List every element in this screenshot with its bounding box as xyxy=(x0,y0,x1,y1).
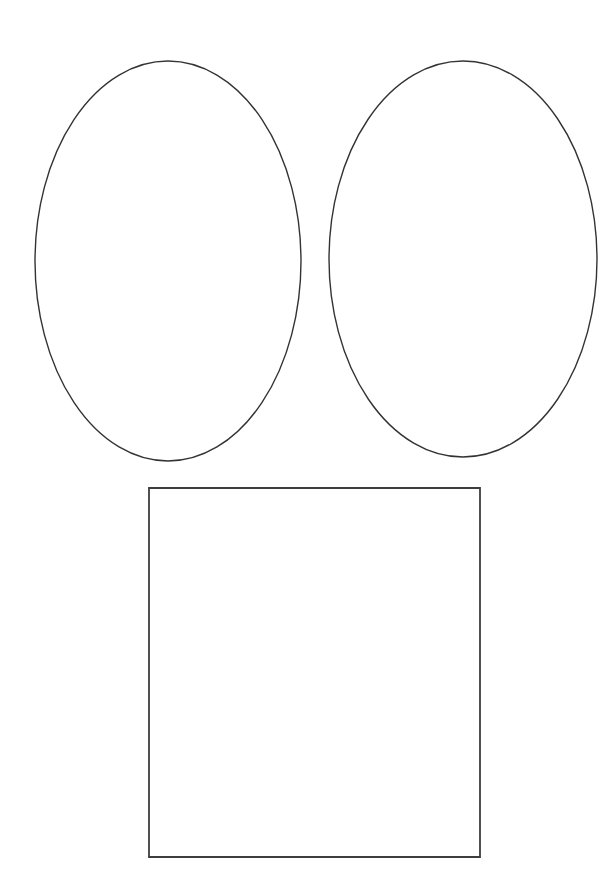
shapes-canvas xyxy=(0,0,606,896)
shapes-svg xyxy=(0,0,606,896)
page-background xyxy=(0,0,606,896)
